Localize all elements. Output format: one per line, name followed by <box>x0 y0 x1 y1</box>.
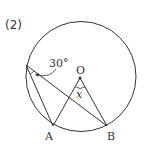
geometry-figure: (2) 30° O x A B <box>0 0 144 150</box>
segment-PA <box>26 65 53 126</box>
label-A: A <box>44 130 54 143</box>
label-30-degrees: 30° <box>49 57 69 70</box>
label-x: x <box>76 88 83 101</box>
label-O: O <box>76 64 85 77</box>
leader-line <box>37 69 56 76</box>
segment-OB <box>80 78 107 126</box>
label-B: B <box>107 130 115 143</box>
circle-diagram: 30° O x A B <box>0 0 144 150</box>
arrow-head-icon <box>35 74 39 78</box>
angle-arc-30 <box>30 71 34 74</box>
